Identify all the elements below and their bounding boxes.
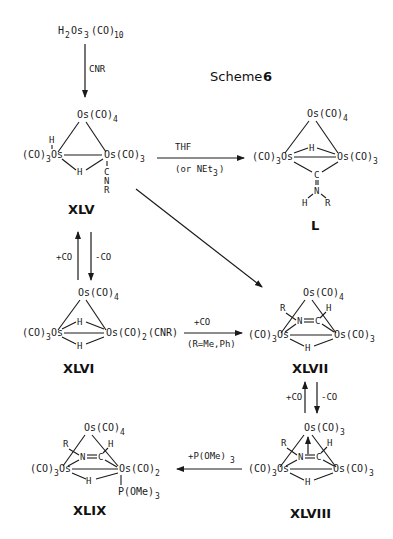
xlvii-h-bridge: H bbox=[305, 343, 310, 353]
xlviii-right-co: (CO) bbox=[345, 463, 369, 474]
xlviii-h-top: H bbox=[327, 438, 332, 448]
xlv-top-sub: 4 bbox=[113, 115, 118, 124]
xlix-right-co: (CO) bbox=[131, 463, 155, 474]
scheme-title-text: Scheme bbox=[210, 69, 262, 84]
xlvi-right-co: (CO) bbox=[118, 327, 142, 338]
xlviii-n: N bbox=[298, 452, 303, 462]
l-c: C bbox=[314, 170, 319, 180]
bond bbox=[317, 148, 335, 154]
compound-xlix: Os (CO) 4 R N C H (CO) 3 Os H Os (CO) 2 … bbox=[30, 422, 160, 501]
formula-sub-3: 3 bbox=[84, 31, 89, 40]
bond bbox=[322, 162, 338, 172]
formula-os: Os bbox=[71, 25, 83, 36]
reagent-plus-co-2: +CO bbox=[194, 317, 210, 327]
scheme-number: 6 bbox=[263, 69, 272, 84]
xlvi-left-os: Os bbox=[51, 327, 63, 338]
bond bbox=[62, 337, 76, 344]
l-right-os: Os bbox=[337, 151, 349, 162]
l-n: N bbox=[314, 186, 319, 196]
xlviii-right-sub: 3 bbox=[369, 469, 374, 478]
reagent-thf-alt: (or NEt bbox=[175, 164, 213, 174]
xlvii-top-sub: 4 bbox=[339, 293, 344, 302]
bond bbox=[86, 159, 103, 170]
bond bbox=[314, 473, 333, 480]
xlvi-top-os: Os bbox=[78, 287, 90, 298]
bond bbox=[285, 121, 309, 153]
xlv-left-co: (CO) bbox=[22, 149, 46, 160]
xlviii-r: R bbox=[281, 438, 287, 448]
bond bbox=[58, 122, 79, 152]
xlvii-left-os: Os bbox=[277, 329, 289, 340]
l-top-os: Os bbox=[307, 108, 319, 119]
reagent-p-ome: +P(OMe) bbox=[188, 451, 226, 461]
xlv-right-sub: 3 bbox=[140, 155, 145, 164]
xlvi-h-top: H bbox=[77, 317, 82, 327]
formula-sub-2: 2 bbox=[65, 31, 70, 40]
xlvii-right-sub: 3 bbox=[370, 335, 375, 344]
xlix-top-os: Os bbox=[84, 422, 96, 433]
reagent-minus-co: -CO bbox=[95, 252, 111, 262]
reagent-plus-co: +CO bbox=[56, 252, 72, 262]
xlvii-h-top: H bbox=[326, 303, 331, 313]
reagent-plus-co-3: +CO bbox=[286, 392, 302, 402]
l-top-co: (CO) bbox=[319, 108, 343, 119]
l-left-os: Os bbox=[281, 151, 293, 162]
xlix-c: C bbox=[98, 452, 103, 462]
bond bbox=[308, 194, 313, 198]
xlix-h-bridge: H bbox=[86, 476, 91, 486]
label-xlvi: XLVI bbox=[63, 361, 94, 376]
xlv-r: R bbox=[104, 185, 110, 195]
label-xlv: XLV bbox=[68, 202, 95, 217]
xlix-top-co: (CO) bbox=[96, 422, 120, 433]
compound-xlv: Os (CO) 4 H (CO) 3 Os H Os (CO) 3 C N R bbox=[22, 109, 145, 195]
xlix-pome-sub: 3 bbox=[155, 492, 160, 501]
formula-co: (CO) bbox=[91, 25, 115, 36]
l-h-bridge: H bbox=[309, 143, 314, 153]
formula-h: H bbox=[58, 25, 64, 36]
xlvii-n: N bbox=[297, 316, 302, 326]
compound-xlviii: Os (CO) 3 R N C H (CO) 3 Os H Os (CO) 3 bbox=[248, 422, 374, 487]
xlvii-c: C bbox=[315, 316, 320, 326]
bond bbox=[86, 122, 106, 152]
l-left-co: (CO) bbox=[252, 151, 276, 162]
xlvii-r: R bbox=[280, 303, 286, 313]
bond bbox=[290, 473, 304, 480]
xlix-right-sub: 2 bbox=[155, 469, 160, 478]
xlv-h-bridge: H bbox=[77, 167, 82, 177]
reagent-thf: THF bbox=[175, 142, 191, 152]
reagent-r-condition: (R=Me,Ph) bbox=[187, 339, 236, 349]
xlvi-top-sub: 4 bbox=[114, 293, 119, 302]
xlviii-left-co: (CO) bbox=[248, 463, 272, 474]
xlix-top-sub: 4 bbox=[120, 428, 125, 437]
bond bbox=[62, 322, 76, 329]
xlviii-top-os: Os bbox=[304, 422, 316, 433]
reagent-thf-alt-sub: 3 bbox=[213, 169, 218, 178]
formula-sub-10: 10 bbox=[114, 31, 124, 40]
label-xlvii: XLVII bbox=[292, 361, 328, 376]
bond bbox=[62, 159, 76, 170]
xlviii-left-os: Os bbox=[277, 463, 289, 474]
xlix-left-co: (CO) bbox=[30, 463, 54, 474]
bond bbox=[294, 148, 308, 153]
xlvii-right-os: Os bbox=[334, 329, 346, 340]
xlv-right-co: (CO) bbox=[116, 149, 140, 160]
xlviii-top-sub: 3 bbox=[340, 428, 345, 437]
bond bbox=[287, 448, 297, 455]
reagent-cnr: CNR bbox=[89, 64, 106, 74]
xlvii-right-co: (CO) bbox=[346, 329, 370, 340]
xlvi-right-sub: 2 bbox=[142, 333, 147, 342]
l-right-sub: 3 bbox=[373, 157, 378, 166]
label-l: L bbox=[311, 218, 319, 233]
xlv-h-top: H bbox=[49, 135, 54, 145]
xlvi-right-cnr: (CNR) bbox=[148, 327, 178, 338]
start-compound: H 2 Os 3 (CO) 10 bbox=[58, 25, 124, 40]
xlviii-top-co: (CO) bbox=[316, 422, 340, 433]
xlvii-top-co: (CO) bbox=[315, 287, 339, 298]
xlix-left-os: Os bbox=[59, 463, 71, 474]
l-h: H bbox=[302, 198, 307, 208]
l-right-co: (CO) bbox=[349, 151, 373, 162]
xlvii-top-os: Os bbox=[303, 287, 315, 298]
bond bbox=[290, 339, 304, 346]
bond bbox=[294, 162, 312, 172]
compound-xlvii: Os (CO) 4 R N C H (CO) 3 Os H Os (CO) 3 bbox=[248, 287, 375, 353]
